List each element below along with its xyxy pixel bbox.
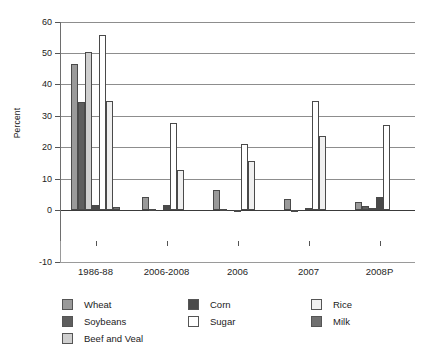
x-axis-label-2007: 2007 xyxy=(273,266,344,277)
x-axis-label-1986-88: 1986-88 xyxy=(60,266,131,277)
y-tick-label-30: 30 xyxy=(24,112,52,121)
bar-corn-2007 xyxy=(305,208,312,210)
legend-label-milk: Milk xyxy=(333,317,350,327)
bar-milk-1986-88 xyxy=(113,207,120,210)
legend-swatch-milk xyxy=(311,316,322,327)
legend-swatch-wheat xyxy=(62,299,73,310)
y-tick-label-50: 50 xyxy=(24,49,52,58)
bar-beef-and-veal-1986-88 xyxy=(85,52,92,210)
legend-swatch-beef-and-veal xyxy=(62,333,73,344)
y-tick-label-0: 0 xyxy=(24,206,52,215)
bar-corn-2006 xyxy=(234,210,241,212)
bar-wheat-2006-2008 xyxy=(142,197,149,210)
bar-wheat-2008p xyxy=(355,202,362,210)
legend-label-beef-and-veal: Beef and Veal xyxy=(84,334,143,344)
y-tick-label-20: 20 xyxy=(24,143,52,152)
bar-sugar-2008p xyxy=(383,125,390,210)
bar-soybeans-2008p xyxy=(362,206,369,210)
x-tick-mark-2006 xyxy=(238,241,239,246)
legend-label-wheat: Wheat xyxy=(84,300,111,310)
bar-wheat-1986-88 xyxy=(71,64,78,210)
bar-corn-2008p xyxy=(376,197,383,210)
bar-corn-2006-2008 xyxy=(163,205,170,210)
bar-sugar-2006 xyxy=(241,144,248,210)
bar-soybeans-1986-88 xyxy=(78,102,85,210)
x-axis-label-2008p: 2008P xyxy=(344,266,415,277)
bar-rice-1986-88 xyxy=(106,101,113,210)
legend-swatch-sugar xyxy=(188,316,199,327)
bar-rice-2007 xyxy=(319,136,326,210)
legend-item-sugar[interactable]: Sugar xyxy=(188,315,235,328)
legend-item-milk[interactable]: Milk xyxy=(311,315,350,328)
legend-label-soybeans: Soybeans xyxy=(84,317,126,327)
legend-swatch-soybeans xyxy=(62,316,73,327)
bar-corn-1986-88 xyxy=(92,205,99,210)
x-tick-mark-2006-2008 xyxy=(167,241,168,246)
bar-rice-2006 xyxy=(248,161,255,210)
y-tick-label-10: 10 xyxy=(24,175,52,184)
bar-soybeans-2007 xyxy=(291,210,298,212)
chart-legend: Wheat Soybeans Beef and Veal Corn Sugar … xyxy=(62,298,432,356)
y-tick-label-neg10: -10 xyxy=(24,258,52,267)
legend-swatch-rice xyxy=(311,299,322,310)
bar-sugar-2007 xyxy=(312,101,319,210)
bar-wheat-2006 xyxy=(213,190,220,210)
bar-sugar-2006-2008 xyxy=(170,123,177,210)
bar-soybeans-2006-2008 xyxy=(149,209,156,211)
x-axis-label-2006-2008: 2006-2008 xyxy=(131,266,202,277)
plot-area: Percent 60 50 40 30 20 10 0 -10 1 xyxy=(0,0,439,300)
x-tick-mark-2008p xyxy=(380,241,381,246)
legend-label-rice: Rice xyxy=(333,300,352,310)
legend-label-sugar: Sugar xyxy=(210,317,235,327)
bar-rice-2006-2008 xyxy=(177,170,184,210)
bar-wheat-2007 xyxy=(284,199,291,210)
legend-item-wheat[interactable]: Wheat xyxy=(62,298,111,311)
bar-soybeans-2006 xyxy=(220,209,227,211)
x-axis-label-2006: 2006 xyxy=(202,266,273,277)
bar-chart: Percent 60 50 40 30 20 10 0 -10 1 xyxy=(0,0,439,361)
x-tick-mark-1986-88 xyxy=(96,241,97,246)
y-axis-title: Percent xyxy=(12,83,22,163)
legend-item-corn[interactable]: Corn xyxy=(188,298,231,311)
x-tick-mark-2007 xyxy=(309,241,310,246)
legend-label-corn: Corn xyxy=(210,300,231,310)
legend-swatch-corn xyxy=(188,299,199,310)
legend-item-rice[interactable]: Rice xyxy=(311,298,352,311)
legend-item-soybeans[interactable]: Soybeans xyxy=(62,315,126,328)
bar-sugar-1986-88 xyxy=(99,35,106,210)
bars-layer xyxy=(60,0,415,300)
legend-item-beef-and-veal[interactable]: Beef and Veal xyxy=(62,332,143,345)
y-tick-label-40: 40 xyxy=(24,80,52,89)
y-tick-label-60: 60 xyxy=(24,18,52,27)
bar-beef-and-veal-2008p xyxy=(369,208,376,210)
